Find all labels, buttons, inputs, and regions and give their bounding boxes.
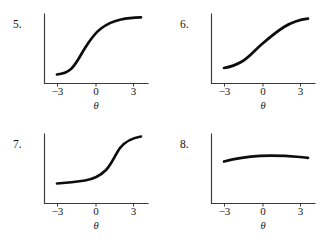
plot-svg-8: −3 0 3 θ <box>167 125 335 249</box>
curve-5 <box>57 17 141 74</box>
axis-lines-6 <box>212 14 316 84</box>
x-axis-label-5: θ <box>93 100 98 111</box>
xtick-label-7-1: 0 <box>93 205 99 217</box>
x-axis-label-6: θ <box>260 100 265 111</box>
xtick-label-8-2: 3 <box>298 205 304 217</box>
xtick-label-6-0: −3 <box>219 85 231 97</box>
plot-svg-7: −3 0 3 θ <box>0 125 167 249</box>
curve-6 <box>224 19 308 68</box>
x-axis-label-7: θ <box>93 220 98 231</box>
curve-7 <box>57 137 141 184</box>
xtick-label-6-2: 3 <box>298 85 304 97</box>
xtick-label-6-1: 0 <box>260 85 266 97</box>
plot-panel-8: 8. −3 0 3 θ <box>167 125 335 249</box>
curve-8 <box>224 156 308 162</box>
xtick-label-5-0: −3 <box>52 85 64 97</box>
xtick-label-7-2: 3 <box>131 205 137 217</box>
xtick-label-5-2: 3 <box>131 85 137 97</box>
plot-panel-6: 6. −3 0 3 θ <box>167 0 335 125</box>
x-axis-label-8: θ <box>260 220 265 231</box>
plot-svg-6: −3 0 3 θ <box>167 0 335 125</box>
plot-svg-5: −3 0 3 θ <box>0 0 167 125</box>
axis-lines-8 <box>212 134 316 204</box>
xtick-label-8-0: −3 <box>219 205 231 217</box>
xtick-label-7-0: −3 <box>52 205 64 217</box>
figure-panel-grid: 5. −3 0 3 θ 6. −3 0 <box>0 0 335 249</box>
axis-lines-7 <box>45 134 149 204</box>
plot-panel-7: 7. −3 0 3 θ <box>0 125 167 249</box>
xtick-label-8-1: 0 <box>260 205 266 217</box>
plot-panel-5: 5. −3 0 3 θ <box>0 0 167 125</box>
xtick-label-5-1: 0 <box>93 85 99 97</box>
